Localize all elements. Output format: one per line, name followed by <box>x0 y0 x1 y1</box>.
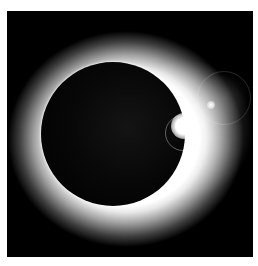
eclipse-photo: Black moon disc surrounded by a glowing … <box>7 11 253 257</box>
moon-disc <box>41 62 185 206</box>
diamond-ring-flare <box>171 113 197 139</box>
lens-flare-small <box>207 101 215 109</box>
lens-flare-halo <box>197 71 251 125</box>
